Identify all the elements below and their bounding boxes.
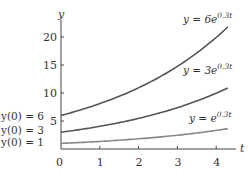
x-tick-label: 3	[174, 156, 181, 169]
y-axis-label: y	[57, 8, 65, 21]
exponential-growth-chart: y t 0 1234 5101520 y = 6e0.3ty(0) = 6y =…	[0, 0, 251, 172]
axes: y t 0	[56, 8, 245, 169]
curve-label-3: y = e0.3t	[188, 110, 233, 124]
x-tick-label: 2	[136, 156, 143, 169]
curve-2	[61, 88, 228, 132]
initial-value-label-2: y(0) = 3	[0, 124, 44, 136]
curves	[61, 27, 228, 143]
x-axis-label: t	[240, 142, 245, 155]
curve-label-1: y = 6e0.3t	[182, 11, 233, 25]
initial-value-label-1: y(0) = 6	[0, 110, 44, 122]
origin-label: 0	[56, 156, 63, 169]
x-tick-label: 1	[97, 156, 104, 169]
y-tick-label: 5	[50, 115, 57, 128]
y-tick-label: 20	[43, 31, 57, 44]
curve-label-2: y = 3e0.3t	[182, 62, 233, 76]
curve-3	[61, 129, 228, 144]
y-tick-label: 10	[43, 87, 57, 100]
initial-value-label-3: y(0) = 1	[0, 136, 44, 148]
curve-labels: y = 6e0.3ty(0) = 6y = 3e0.3ty(0) = 3y = …	[0, 11, 233, 148]
y-tick-label: 15	[43, 59, 57, 72]
x-tick-label: 4	[213, 156, 220, 169]
